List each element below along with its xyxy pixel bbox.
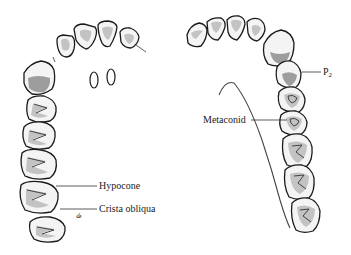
- upper-incisor-2: [74, 24, 97, 49]
- lower-premolar-4: [280, 111, 307, 135]
- label-metaconid: Metaconid: [203, 115, 246, 125]
- small-mark: ሬ: [76, 212, 81, 220]
- label-hypocone: Hypocone: [99, 181, 140, 191]
- lower-molar-3: [292, 198, 321, 232]
- label-p2: P2: [323, 67, 332, 79]
- lower-premolar-2: [276, 61, 301, 88]
- upper-molar-1: [21, 149, 56, 179]
- diagram-canvas: [0, 0, 351, 255]
- dental-arch-diagram: Hypocone Crista obliqua ሬ P2 Metaconid: [0, 0, 351, 255]
- upper-incisor-1: [57, 35, 75, 57]
- label-crista-obliqua: Crista obliqua: [99, 204, 155, 214]
- lower-incisor-2: [207, 18, 225, 40]
- upper-molar-3: [30, 217, 66, 242]
- lower-incisor-3: [227, 16, 245, 40]
- upper-canine: [24, 61, 55, 94]
- lower-molar-2: [285, 165, 315, 199]
- lower-incisor-4: [247, 18, 265, 41]
- upper-incisor-3: [98, 21, 117, 47]
- incisive-foramen-left: [90, 72, 98, 88]
- incisive-foramen-right: [107, 69, 115, 85]
- lower-molar-1: [283, 134, 313, 167]
- upper-premolar-1: [27, 96, 56, 122]
- label-p2-subscript: 2: [329, 71, 333, 79]
- lower-incisor-1: [187, 23, 207, 47]
- upper-premolar-2: [23, 122, 55, 149]
- upper-molar-2: [20, 181, 58, 213]
- lower-premolar-3: [278, 87, 305, 112]
